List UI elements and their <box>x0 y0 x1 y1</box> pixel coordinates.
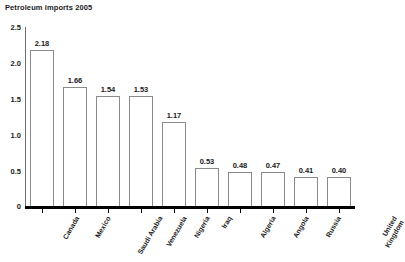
bar-value-label: 1.66 <box>55 77 95 85</box>
x-axis-category-label: Mexico <box>94 215 112 239</box>
x-axis-tick <box>306 209 307 213</box>
y-tick-label-2-0: 2.0 <box>1 60 21 68</box>
bar <box>129 96 153 206</box>
x-axis-category-label: Canada <box>62 215 81 241</box>
bar <box>195 168 219 206</box>
x-axis-tick <box>108 209 109 213</box>
bar-value-label: 0.40 <box>319 167 359 175</box>
x-axis-category-label: Saudi Arabia <box>136 215 164 256</box>
x-axis-tick <box>42 209 43 213</box>
y-tick-label-1-0: 1.0 <box>1 132 21 140</box>
y-tick-label-0-5: 0.5 <box>1 168 21 176</box>
y-tick-label-1-5: 1.5 <box>1 96 21 104</box>
x-axis-tick <box>141 209 142 213</box>
x-axis-tick <box>174 209 175 213</box>
bar <box>30 50 54 206</box>
x-axis-category-label: Angola <box>292 215 310 239</box>
bar-value-label: 1.17 <box>154 112 194 120</box>
bar-value-label: 2.18 <box>22 40 62 48</box>
x-axis-category-label: Algeria <box>259 215 277 239</box>
bar <box>261 172 285 206</box>
bar <box>228 172 252 206</box>
x-axis-tick <box>273 209 274 213</box>
x-axis-category-label: United Kingdom <box>369 215 405 262</box>
y-tick-label-2-5: 2.5 <box>1 24 21 32</box>
x-axis-tick <box>240 209 241 213</box>
bar-value-label: 1.53 <box>121 86 161 94</box>
y-axis-line <box>25 27 26 207</box>
bar <box>327 177 351 206</box>
x-axis-category-label: Nigeria <box>193 215 211 239</box>
bar <box>96 96 120 206</box>
bar <box>63 87 87 206</box>
x-axis-tick <box>339 209 340 213</box>
x-axis-category-label: Iraq <box>220 215 233 230</box>
y-tick-label-0: 0 <box>1 203 21 211</box>
bar <box>294 177 318 206</box>
x-axis-tick <box>207 209 208 213</box>
x-axis-tick <box>75 209 76 213</box>
x-axis-category-label: Venezuela <box>165 215 188 248</box>
bar <box>162 122 186 206</box>
x-axis-category-label: Russia <box>324 215 342 239</box>
